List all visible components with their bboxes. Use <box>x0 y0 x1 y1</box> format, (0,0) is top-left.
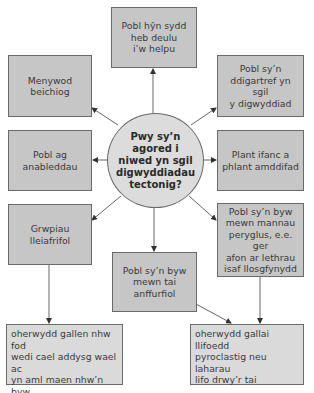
node-older-people: Pobl hŷn sydd heb deulu i’w helpu <box>111 7 197 68</box>
central-question: Pwy sy’n agored i niwed yn sgil digwyddi… <box>107 113 204 208</box>
node-children-orphans: Plant ifanc a phlant amddifad <box>217 130 304 191</box>
node-minority-groups: Grwpiau lleiafrifol <box>8 204 92 265</box>
node-informal-housing: Pobl sy’n byw mewn tai anffurfiol <box>112 252 197 312</box>
explanation-right: oherwydd gallai llifoedd pyroclastig neu… <box>190 324 304 385</box>
mind-map-diagram: Pwy sy’n agored i niwed yn sgil digwyddi… <box>0 0 314 393</box>
node-homeless: Pobl sy’n ddigartref yn sgil y digwyddia… <box>217 55 304 117</box>
node-dangerous-places: Pobl sy’n byw mewn mannau peryglus, e.e.… <box>217 203 304 277</box>
explanation-left: oherwydd gallen nhw fod wedi cael addysg… <box>6 324 123 385</box>
node-disabled: Pobl ag anableddau <box>8 130 92 191</box>
node-pregnant-women: Menywod beichiog <box>8 55 92 117</box>
